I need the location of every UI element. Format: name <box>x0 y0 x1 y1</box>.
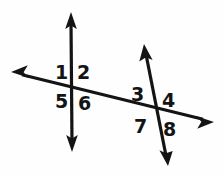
line-group-transversal <box>11 65 214 129</box>
angle-label-1: 1 <box>55 63 68 82</box>
vertical-line-shaft <box>71 22 72 143</box>
transversal-arrow-left-icon <box>11 65 28 78</box>
angle-label-2: 2 <box>77 63 90 82</box>
angle-label-3: 3 <box>131 85 144 104</box>
angle-diagram-canvas: 1 2 3 4 5 6 7 8 <box>0 0 223 175</box>
angle-label-5: 5 <box>55 92 68 111</box>
transversal-line-shaft <box>22 75 203 120</box>
angle-label-7: 7 <box>134 117 147 136</box>
angle-label-8: 8 <box>163 120 176 139</box>
transversal-arrow-right-icon <box>197 116 214 129</box>
geometry-line-svg <box>0 0 223 175</box>
angle-label-6: 6 <box>78 94 91 113</box>
angle-label-4: 4 <box>162 91 175 110</box>
